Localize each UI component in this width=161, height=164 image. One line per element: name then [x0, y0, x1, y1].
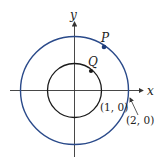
- y-axis-label: y: [69, 8, 77, 22]
- point-q-label: Q: [88, 55, 98, 69]
- label-1-0: (1, 0): [100, 101, 128, 113]
- point-p-label: P: [100, 31, 110, 45]
- pointer-2-0: [130, 98, 138, 115]
- label-2-0: (2, 0): [126, 114, 154, 126]
- point-q: [89, 69, 93, 73]
- unit-circles-diagram: x y P Q (1, 0) (2, 0): [0, 0, 161, 164]
- x-axis-label: x: [147, 84, 154, 98]
- point-p: [102, 45, 107, 50]
